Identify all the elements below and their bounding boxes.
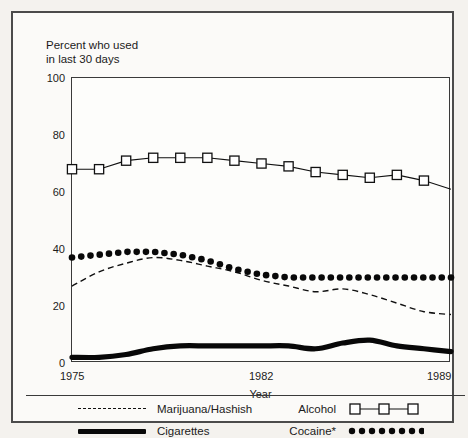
cocaine-marker	[198, 256, 205, 263]
alcohol-marker	[284, 162, 293, 171]
cocaine-marker	[337, 274, 344, 281]
y-axis-caption: Percent who used in last 30 days	[46, 39, 138, 66]
legend: Marijuana/Hashish Cigarettes Alcohol	[26, 395, 465, 436]
cocaine-marker	[115, 249, 122, 256]
cocaine-marker	[180, 252, 187, 259]
x-tick-1989: 1989	[427, 370, 451, 382]
alcohol-marker	[338, 170, 347, 179]
cocaine-marker	[244, 268, 251, 275]
cocaine-marker	[235, 266, 242, 273]
cocaine-marker	[365, 274, 372, 281]
alcohol-marker	[203, 153, 212, 162]
y-tick-20: 20	[53, 300, 65, 312]
cocaine-marker	[170, 251, 177, 258]
series-layer	[72, 78, 451, 363]
cocaine-marker	[133, 249, 140, 256]
alcohol-marker	[257, 159, 266, 168]
cocaine-marker	[78, 253, 85, 260]
y-tick-40: 40	[53, 243, 65, 255]
legend-label-cigarettes: Cigarettes	[157, 425, 209, 437]
cocaine-marker	[143, 249, 150, 256]
cocaine-marker	[448, 274, 455, 281]
legend-item-cocaine: Cocaine*	[274, 422, 424, 438]
series-alcohol	[67, 153, 451, 189]
cocaine-marker	[124, 249, 131, 256]
plot-area: 0 20 40 60 80 100 1975 1982 1989 Year	[71, 77, 450, 362]
alcohol-marker	[419, 176, 428, 185]
cocaine-marker	[87, 252, 94, 259]
cocaine-marker	[226, 264, 233, 271]
alcohol-marker	[230, 156, 239, 165]
legend-label-marijuana: Marijuana/Hashish	[157, 403, 252, 415]
series-cigarettes	[72, 340, 451, 357]
y-tick-0: 0	[59, 357, 65, 369]
cocaine-marker	[401, 274, 408, 281]
figure-canvas: Percent who used in last 30 days 0 20 40…	[0, 0, 468, 438]
cocaine-marker	[281, 274, 288, 281]
alcohol-marker	[149, 153, 158, 162]
thick-line-icon	[76, 423, 148, 438]
cocaine-marker	[272, 273, 279, 280]
alcohol-marker	[94, 165, 103, 174]
square-marker-line-icon	[346, 401, 424, 417]
cocaine-marker	[189, 254, 196, 261]
legend-item-marijuana: Marijuana/Hashish	[76, 400, 252, 418]
cocaine-marker	[383, 274, 390, 281]
x-tick-1982: 1982	[249, 370, 273, 382]
alcohol-marker	[176, 153, 185, 162]
cocaine-marker	[106, 250, 113, 257]
cocaine-marker	[300, 274, 307, 281]
legend-item-cigarettes: Cigarettes	[76, 422, 209, 438]
cocaine-marker	[217, 261, 224, 268]
cocaine-marker	[438, 274, 445, 281]
cocaine-marker	[254, 270, 261, 277]
cocaine-marker	[69, 254, 76, 261]
dot-marker-icon	[346, 423, 424, 438]
figure-frame: Percent who used in last 30 days 0 20 40…	[11, 11, 454, 423]
cocaine-marker	[392, 274, 399, 281]
cocaine-marker	[429, 274, 436, 281]
cocaine-marker	[411, 274, 418, 281]
cocaine-marker	[420, 274, 427, 281]
y-tick-60: 60	[53, 186, 65, 198]
cocaine-marker	[328, 274, 335, 281]
cocaine-marker	[161, 250, 168, 257]
cocaine-marker	[355, 274, 362, 281]
cocaine-marker	[374, 274, 381, 281]
cocaine-marker	[207, 258, 214, 265]
alcohol-marker	[67, 165, 76, 174]
y-tick-100: 100	[47, 72, 65, 84]
legend-item-alcohol: Alcohol	[274, 400, 424, 418]
y-tick-80: 80	[53, 129, 65, 141]
alcohol-marker	[311, 167, 320, 176]
cocaine-marker	[309, 274, 316, 281]
alcohol-marker	[365, 173, 374, 182]
x-tick-1975: 1975	[60, 370, 84, 382]
alcohol-marker	[122, 156, 131, 165]
series-cocaine	[69, 249, 455, 281]
cocaine-marker	[152, 249, 159, 256]
cocaine-marker	[346, 274, 353, 281]
alcohol-marker	[392, 170, 401, 179]
series-marijuana	[72, 257, 451, 314]
cocaine-marker	[291, 274, 298, 281]
cocaine-marker	[263, 272, 270, 279]
cocaine-marker	[318, 274, 325, 281]
legend-label-cocaine: Cocaine*	[274, 425, 336, 437]
dashed-line-icon	[76, 401, 148, 417]
cocaine-marker	[96, 251, 103, 258]
legend-label-alcohol: Alcohol	[274, 403, 336, 415]
